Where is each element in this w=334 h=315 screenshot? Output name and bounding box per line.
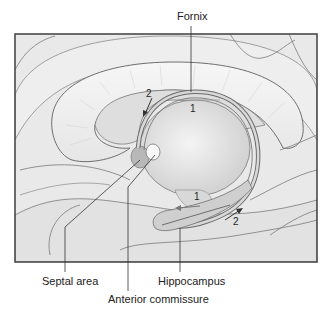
brain-illustration (0, 0, 334, 315)
label-fornix: Fornix (177, 10, 208, 22)
label-hippocampus: Hippocampus (158, 275, 225, 287)
arrow-number-upper-1: 1 (190, 103, 196, 114)
arrow-number-lower-1: 1 (194, 191, 200, 202)
brain-tissue (15, 34, 317, 262)
label-septal-area: Septal area (42, 275, 98, 287)
label-anterior-commissure: Anterior commissure (108, 293, 209, 305)
arrow-number-upper-2: 2 (146, 88, 152, 99)
arrow-number-lower-2: 2 (233, 216, 239, 227)
fornix-diagram: Fornix Septal area Hippocampus Anterior … (0, 0, 334, 315)
